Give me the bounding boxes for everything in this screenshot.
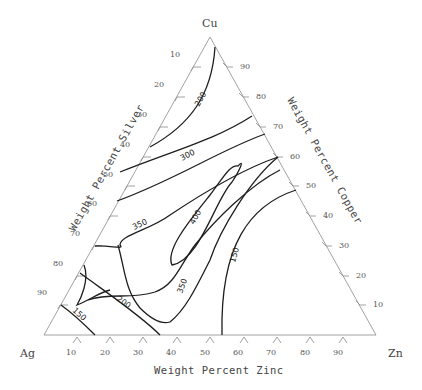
vertex-label-zn: Zn xyxy=(388,347,403,360)
contour-350-bottom xyxy=(118,157,278,323)
right-tick-labels: 90 80 70 60 50 40 30 20 10 xyxy=(240,62,383,309)
ternary-diagram: 10 20 30 40 50 60 70 80 90 90 80 70 60 5… xyxy=(0,0,422,390)
svg-text:20: 20 xyxy=(154,80,164,89)
svg-text:40: 40 xyxy=(166,348,176,357)
svg-text:90: 90 xyxy=(37,288,47,297)
svg-text:10: 10 xyxy=(170,50,180,59)
contour-label-150-right: 150 xyxy=(228,246,241,263)
contour-label-150-left: 150 xyxy=(71,306,88,323)
svg-text:60: 60 xyxy=(290,152,300,161)
svg-text:20: 20 xyxy=(100,348,110,357)
svg-text:90: 90 xyxy=(333,348,343,357)
svg-text:10: 10 xyxy=(66,348,76,357)
bottom-axis-ticks xyxy=(73,337,347,343)
vertex-label-cu: Cu xyxy=(202,17,218,30)
svg-text:80: 80 xyxy=(53,259,63,268)
svg-text:50: 50 xyxy=(200,348,210,357)
bottom-axis-title: Weight Percent Zinc xyxy=(154,364,284,376)
svg-text:50: 50 xyxy=(306,181,316,190)
svg-text:30: 30 xyxy=(339,241,349,250)
vertex-label-ag: Ag xyxy=(19,347,35,360)
svg-text:80: 80 xyxy=(256,92,266,101)
contour-label-350-bottom: 350 xyxy=(175,277,189,294)
bottom-tick-labels: 10 20 30 40 50 60 70 80 90 xyxy=(66,348,343,357)
svg-text:40: 40 xyxy=(323,211,333,220)
left-axis-ticks xyxy=(58,67,201,309)
contour-label-300: 300 xyxy=(179,148,197,163)
contour-label-200-top: 200 xyxy=(193,90,208,108)
svg-text:80: 80 xyxy=(300,348,310,357)
contour-label-350-left: 350 xyxy=(131,217,149,232)
left-axis-title: Weight Percent Silver xyxy=(66,102,146,233)
contour-label-400: 400 xyxy=(188,208,203,226)
svg-text:20: 20 xyxy=(356,271,366,280)
contour-label-200-bottom: 200 xyxy=(115,294,133,310)
svg-text:70: 70 xyxy=(273,122,283,131)
svg-text:30: 30 xyxy=(133,348,143,357)
svg-text:70: 70 xyxy=(266,348,276,357)
svg-text:10: 10 xyxy=(373,300,383,309)
svg-text:60: 60 xyxy=(233,348,243,357)
contour-300-lower xyxy=(117,134,265,201)
svg-text:90: 90 xyxy=(240,62,250,71)
